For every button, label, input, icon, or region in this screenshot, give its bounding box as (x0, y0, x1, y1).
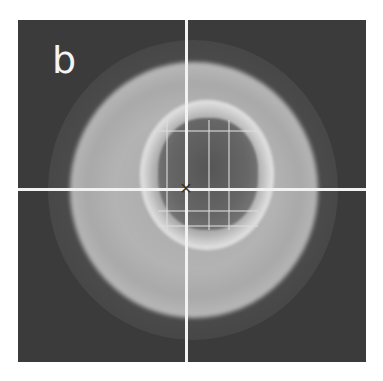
grid-line-vertical (166, 120, 168, 230)
grid-line-horizontal (158, 130, 258, 132)
grid-line-vertical (208, 120, 210, 230)
image-panel: ✕ b (18, 20, 366, 362)
center-x-icon: ✕ (176, 179, 196, 199)
grid-line-vertical (228, 120, 230, 230)
panel-label: b (52, 38, 76, 82)
grid-line-horizontal (158, 225, 258, 227)
grid-line-horizontal (158, 210, 258, 212)
